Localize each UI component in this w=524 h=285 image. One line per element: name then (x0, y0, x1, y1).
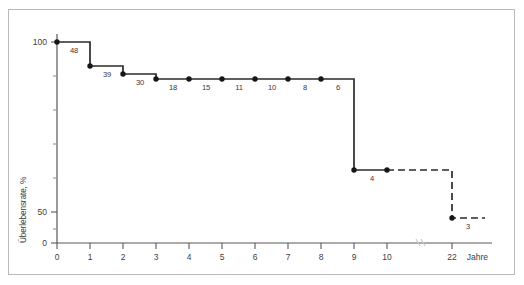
at-risk-label-4: 15 (202, 83, 210, 92)
y-label-100: 100 (33, 37, 47, 47)
x-axis-title: Jahre (467, 252, 489, 262)
survival-curve-dashed (387, 170, 485, 218)
survival-curve-solid (57, 42, 387, 170)
x-label-5: 5 (220, 252, 225, 262)
data-point-year-7 (285, 76, 290, 81)
at-risk-label-8: 6 (336, 83, 340, 92)
x-label-10: 10 (382, 252, 392, 262)
at-risk-label-2: 30 (136, 78, 144, 87)
data-point-year-6 (252, 76, 257, 81)
x-label-1: 1 (88, 252, 93, 262)
data-point-year-4 (186, 76, 191, 81)
survival-curve-figure: 100 50 0 Überlebensrate, % 0 1 2 3 4 5 6… (0, 0, 524, 285)
at-risk-label-22: 3 (466, 222, 470, 231)
at-risk-label-3: 18 (169, 83, 177, 92)
survival-chart-svg: 100 50 0 Überlebensrate, % 0 1 2 3 4 5 6… (0, 0, 524, 285)
x-label-6: 6 (253, 252, 258, 262)
data-point-year-10 (384, 167, 389, 172)
x-label-4: 4 (187, 252, 192, 262)
x-label-22: 22 (447, 252, 457, 262)
x-label-9: 9 (352, 252, 357, 262)
data-point-year-2 (120, 71, 125, 76)
data-point-year-1 (87, 63, 92, 68)
at-risk-label-1: 39 (103, 70, 111, 79)
at-risk-label-7: 8 (303, 83, 307, 92)
at-risk-label-0: 48 (70, 46, 78, 55)
x-label-8: 8 (319, 252, 324, 262)
y-label-50: 50 (38, 207, 48, 217)
at-risk-label-9: 4 (370, 174, 374, 183)
data-point-year-22 (449, 215, 454, 220)
y-axis-title: Überlebensrate, % (18, 177, 28, 243)
x-label-0: 0 (55, 252, 60, 262)
data-point-year-8 (318, 76, 323, 81)
at-risk-label-6: 10 (268, 83, 276, 92)
data-point-year-5 (219, 76, 224, 81)
data-point-year-0 (54, 39, 59, 44)
data-point-year-3 (153, 76, 158, 81)
data-point-year-9 (351, 167, 356, 172)
at-risk-label-5: 11 (235, 83, 243, 92)
x-label-3: 3 (154, 252, 159, 262)
y-label-0: 0 (42, 238, 47, 248)
x-label-7: 7 (286, 252, 291, 262)
x-label-2: 2 (121, 252, 126, 262)
